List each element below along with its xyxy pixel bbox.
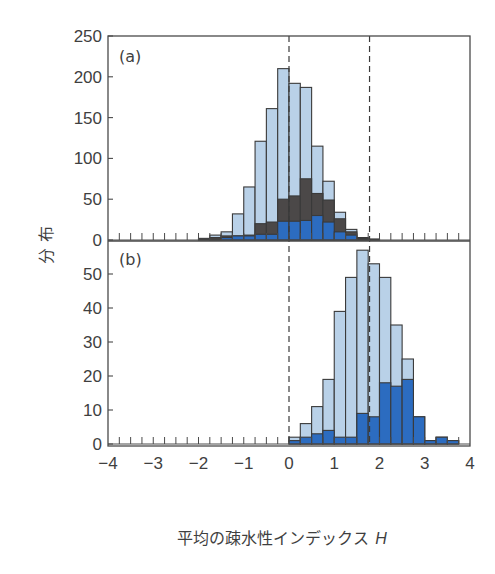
bar-b-subset-blue	[413, 417, 424, 444]
bar-b-total	[334, 311, 345, 444]
panel-b-label: (b)	[119, 250, 142, 269]
x-tick-label: 0	[284, 454, 293, 473]
x-tick-label: 4	[465, 454, 474, 473]
bar-b-subset-blue	[300, 437, 311, 444]
bar-b-subset-blue	[334, 437, 345, 444]
y-tick-label: 40	[83, 299, 102, 318]
y-tick-label: 100	[74, 149, 102, 168]
x-tick-label: −4	[98, 454, 117, 473]
x-axis-title: 平均の疎水性インデックスH	[177, 529, 387, 548]
x-tick-label: 1	[330, 454, 339, 473]
bar-a-subset-blue	[232, 236, 243, 240]
x-tick-label: −3	[144, 454, 163, 473]
bar-b-subset-blue	[402, 379, 413, 444]
y-tick-label: 0	[93, 435, 102, 454]
bar-a-total	[244, 187, 255, 240]
bar-a-subset-blue	[323, 222, 334, 240]
bar-b-subset-blue	[425, 441, 436, 444]
histogram-chart: 05010015020025001020304050 −4−3−2−101234…	[0, 0, 495, 574]
y-tick-label: 200	[74, 68, 102, 87]
bar-b-subset-blue	[447, 441, 458, 444]
x-tick-label: 2	[375, 454, 384, 473]
bar-b-subset-blue	[436, 437, 447, 444]
bar-a-subset-blue	[300, 220, 311, 240]
y-tick-label: 50	[83, 190, 102, 209]
bar-b-subset-blue	[380, 383, 391, 444]
bar-a-subset-blue	[266, 234, 277, 240]
bar-a-subset-blue	[312, 216, 323, 240]
y-tick-label: 30	[83, 333, 102, 352]
y-tick-label: 20	[83, 367, 102, 386]
bar-a-subset-blue	[346, 235, 357, 240]
panel-a-label: (a)	[119, 47, 141, 66]
x-axis-variable: H	[375, 530, 387, 547]
bar-a-subset-blue	[278, 221, 289, 240]
x-axis-title-text: 平均の疎水性インデックス	[177, 529, 369, 548]
y-axis-title: 分 布	[37, 226, 56, 263]
bar-a-subset-blue	[255, 234, 266, 240]
bar-b-subset-blue	[357, 413, 368, 444]
bar-b-subset-blue	[323, 430, 334, 444]
bar-b-subset-blue	[391, 386, 402, 444]
panel-a-bars	[199, 69, 380, 240]
y-tick-label: 150	[74, 109, 102, 128]
x-tick-label: −2	[189, 454, 208, 473]
bar-b-subset-blue	[346, 437, 357, 444]
y-tick-label: 10	[83, 401, 102, 420]
bar-b-subset-blue	[312, 434, 323, 444]
bar-a-subset-blue	[289, 221, 300, 240]
x-tick-label: −1	[234, 454, 253, 473]
y-tick-label: 250	[74, 27, 102, 46]
bar-a-subset-blue	[334, 232, 345, 240]
x-tick-labels: −4−3−2−101234	[98, 454, 474, 473]
bar-b-subset-blue	[289, 441, 300, 444]
y-tick-labels: 05010015020025001020304050	[74, 27, 102, 454]
bar-b-total	[346, 277, 357, 444]
bar-a-subset-blue	[244, 236, 255, 240]
panel-b-bars	[289, 250, 459, 444]
bar-a-total	[266, 109, 277, 240]
x-tick-label: 3	[420, 454, 429, 473]
y-tick-label: 50	[83, 265, 102, 284]
y-tick-label: 0	[93, 231, 102, 250]
